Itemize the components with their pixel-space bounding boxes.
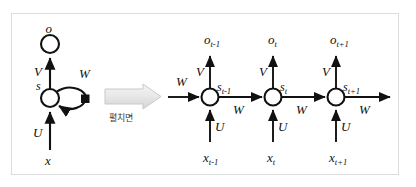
rnn-unfold-diagram: o V s W U x 펼치면 W st-1 V ot-1 U	[0, 0, 416, 187]
unrolled-incoming-weight-W-label: W	[176, 74, 188, 89]
unrolled-step-t: st V ot U xt W	[259, 32, 325, 167]
unrolled-state-label-t: st	[280, 80, 288, 96]
unrolled-input-label-t: xt	[266, 150, 276, 167]
unrolled-weight-U-label-t: U	[278, 119, 289, 134]
folded-state-node	[41, 89, 59, 107]
unrolled-output-label-t: ot	[268, 32, 278, 49]
unrolled-input-label-t-plus-1: xt+1	[328, 150, 347, 167]
folded-weight-W-label: W	[79, 66, 91, 81]
unrolled-state-node-t-plus-1	[328, 89, 345, 106]
unrolled-outgoing-weight-W-label: W	[359, 102, 371, 117]
unrolled-step-t-1: st-1 V ot-1 U xt-1 W	[196, 32, 262, 167]
folded-weight-V-label: V	[34, 64, 44, 79]
folded-output-label: o	[46, 21, 53, 36]
unrolled-weight-V-label-t-1: V	[196, 64, 206, 79]
unrolled-weight-V-label-t-plus-1: V	[322, 64, 332, 79]
unrolled-step-t-plus-1: st+1 V ot+1 U xt+1 W	[322, 32, 390, 167]
unrolled-weight-V-label-t: V	[259, 64, 269, 79]
unrolled-state-label-t-1: st-1	[217, 80, 231, 96]
unfold-block-arrow	[105, 84, 161, 109]
figure-canvas: o V s W U x 펼치면 W st-1 V ot-1 U	[0, 0, 416, 187]
unrolled-weight-U-label-t-1: U	[215, 119, 226, 134]
folded-output-node	[41, 35, 59, 53]
folded-input-label: x	[44, 153, 51, 168]
unfold-label: 펼치면	[109, 112, 133, 123]
folded-state-label: s	[36, 79, 41, 93]
unrolled-output-label-t-1: ot-1	[204, 32, 220, 49]
unrolled-state-node-t-1	[202, 89, 219, 106]
unrolled-output-label-t-plus-1: ot+1	[330, 32, 349, 49]
unrolled-weight-U-label-t-plus-1: U	[341, 119, 352, 134]
unrolled-state-node-t	[265, 89, 282, 106]
folded-recurrent-terminal-square	[81, 95, 90, 104]
folded-weight-U-label: U	[33, 125, 44, 140]
unrolled-weight-W-label-t: W	[296, 102, 308, 117]
unrolled-state-label-t-plus-1: st+1	[343, 80, 360, 96]
unrolled-weight-W-label-t-1: W	[233, 102, 245, 117]
unrolled-input-label-t-1: xt-1	[202, 150, 218, 167]
